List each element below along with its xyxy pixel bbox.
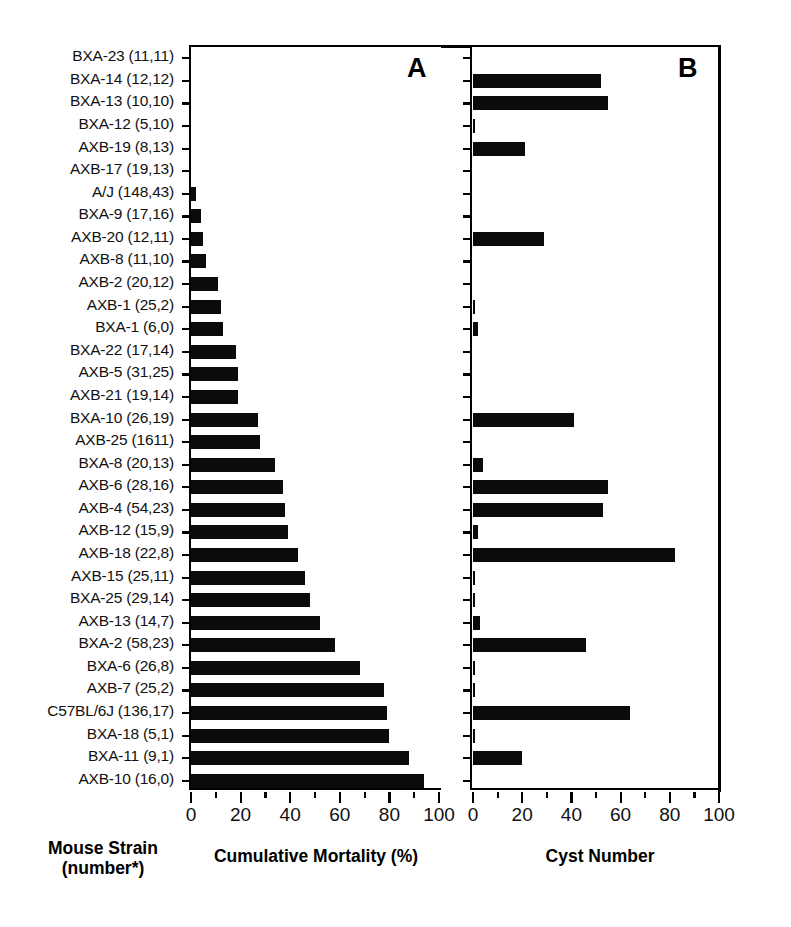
bar-cyst	[473, 593, 475, 607]
bar-row-cyst	[472, 300, 720, 314]
bar-mortality	[191, 661, 360, 675]
y-tick-b	[463, 712, 472, 714]
bar-row-cyst	[472, 119, 720, 133]
strain-label: BXA-10 (26,19)	[70, 410, 174, 426]
x-tick-cyst	[718, 792, 720, 803]
bar-mortality	[191, 571, 305, 585]
bar-row-cyst	[472, 232, 720, 246]
bar-mortality	[191, 322, 223, 336]
caption-strain-line2: (number*)	[62, 858, 145, 878]
bar-cyst	[473, 548, 675, 562]
bar-row-cyst	[472, 187, 720, 201]
x-tick-mortality	[388, 792, 390, 803]
strain-label: BXA-1 (6,0)	[95, 319, 174, 335]
bar-mortality	[191, 277, 218, 291]
y-tick-a	[182, 577, 191, 579]
x-tick-cyst	[570, 792, 572, 803]
bar-row-mortality	[191, 232, 441, 246]
y-tick-b	[463, 486, 472, 488]
caption-strain-line1: Mouse Strain	[48, 838, 158, 858]
bar-mortality	[191, 616, 320, 630]
bar-row-cyst	[472, 683, 720, 697]
bar-row-mortality	[191, 119, 441, 133]
x-tick-label-mortality: 40	[280, 804, 301, 826]
x-tick-cyst	[497, 792, 499, 798]
strain-label-column: BXA-23 (11,11)BXA-14 (12,12)BXA-13 (10,1…	[0, 45, 178, 790]
y-tick-b	[463, 306, 472, 308]
strain-label: BXA-25 (29,14)	[70, 590, 174, 606]
x-tick-cyst	[472, 792, 474, 803]
y-tick-a	[182, 735, 191, 737]
y-tick-b	[463, 283, 472, 285]
bar-row-cyst	[472, 164, 720, 178]
bar-mortality	[191, 638, 335, 652]
bar-row-cyst	[472, 729, 720, 743]
panel-a-mortality: A 020406080100	[189, 45, 441, 790]
bar-row-mortality	[191, 593, 441, 607]
bar-row-cyst	[472, 435, 720, 449]
strain-label: C57BL/6J (136,17)	[47, 703, 174, 719]
bar-row-cyst	[472, 390, 720, 404]
bar-row-mortality	[191, 571, 441, 585]
y-tick-a	[182, 599, 191, 601]
x-tick-label-mortality: 100	[423, 804, 455, 826]
bar-row-cyst	[472, 458, 720, 472]
strain-label: AXB-2 (20,12)	[78, 274, 174, 290]
strain-label: BXA-14 (12,12)	[70, 71, 174, 87]
y-tick-b	[463, 148, 472, 150]
y-tick-a	[182, 238, 191, 240]
y-tick-b	[463, 735, 472, 737]
x-tick-label-cyst: 40	[561, 804, 582, 826]
y-tick-a	[182, 441, 191, 443]
bar-cyst	[473, 300, 475, 314]
y-tick-a	[182, 780, 191, 782]
x-tick-label-cyst: 100	[703, 804, 735, 826]
x-tick-label-cyst: 80	[659, 804, 680, 826]
bar-cyst	[473, 706, 630, 720]
bar-row-cyst	[472, 751, 720, 765]
strain-label: AXB-5 (31,25)	[78, 364, 174, 380]
bar-row-cyst	[472, 706, 720, 720]
strain-label: AXB-10 (16,0)	[78, 771, 174, 787]
x-tick-label-mortality: 60	[329, 804, 350, 826]
y-tick-a	[182, 622, 191, 624]
bar-row-mortality	[191, 729, 441, 743]
strain-label: AXB-6 (28,16)	[78, 477, 174, 493]
bar-cyst	[473, 525, 478, 539]
y-tick-b	[463, 622, 472, 624]
x-tick-mortality	[339, 792, 341, 803]
bar-row-cyst	[472, 638, 720, 652]
y-tick-a	[182, 464, 191, 466]
strain-label: AXB-19 (8,13)	[78, 139, 174, 155]
strain-label: AXB-1 (25,2)	[87, 297, 174, 313]
bar-row-mortality	[191, 164, 441, 178]
bar-mortality	[191, 300, 221, 314]
bar-mortality	[191, 774, 424, 788]
strain-label: AXB-21 (19,14)	[70, 387, 174, 403]
strain-label: AXB-17 (19,13)	[70, 161, 174, 177]
bar-row-cyst	[472, 254, 720, 268]
bar-row-mortality	[191, 187, 441, 201]
y-tick-b	[463, 351, 472, 353]
strain-label: AXB-20 (12,11)	[71, 229, 174, 245]
y-tick-a	[182, 373, 191, 375]
axis-caption-cyst-number: Cyst Number	[500, 846, 700, 866]
bar-cyst	[473, 119, 475, 133]
strain-label: AXB-12 (15,9)	[78, 522, 174, 538]
bar-row-cyst	[472, 616, 720, 630]
y-tick-b	[463, 215, 472, 217]
bar-row-mortality	[191, 390, 441, 404]
y-tick-b	[463, 689, 472, 691]
bar-row-mortality	[191, 548, 441, 562]
y-tick-a	[182, 689, 191, 691]
bar-row-cyst	[472, 413, 720, 427]
bar-mortality	[191, 525, 288, 539]
strain-label: BXA-11 (9,1)	[88, 748, 174, 764]
y-tick-a	[182, 644, 191, 646]
y-tick-b	[463, 554, 472, 556]
x-tick-mortality	[289, 792, 291, 803]
x-tick-cyst	[521, 792, 523, 803]
y-tick-a	[182, 80, 191, 82]
y-tick-b	[463, 57, 472, 59]
x-tick-cyst	[620, 792, 622, 803]
